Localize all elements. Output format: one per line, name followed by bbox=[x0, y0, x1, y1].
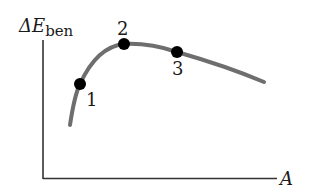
binding-energy-diagram: 1 2 3 ΔEben A bbox=[0, 0, 309, 192]
y-axis-label-main: ΔE bbox=[18, 15, 45, 36]
point-1-label: 1 bbox=[86, 89, 97, 110]
y-axis-label: ΔEben bbox=[18, 15, 74, 40]
point-3 bbox=[171, 46, 183, 58]
energy-curve bbox=[70, 44, 264, 125]
point-3-label: 3 bbox=[172, 58, 183, 79]
point-2-label: 2 bbox=[117, 18, 128, 39]
x-axis-label: A bbox=[278, 168, 293, 189]
y-axis-label-subscript: ben bbox=[45, 22, 73, 40]
point-2 bbox=[118, 38, 130, 50]
point-1 bbox=[74, 78, 86, 90]
